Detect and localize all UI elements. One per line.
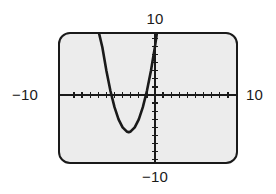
plot-canvas <box>60 34 236 162</box>
x-axis-max-label: 10 <box>246 87 263 102</box>
viewing-window-frame <box>58 32 238 164</box>
x-axis-min-label: −10 <box>12 87 38 102</box>
axes-group <box>60 34 236 162</box>
parabola-path <box>97 34 167 132</box>
y-axis-min-label: −10 <box>17 169 276 184</box>
parabola-curve <box>97 34 167 132</box>
graphing-calculator-figure: 10 −10 −10 10 <box>0 0 276 194</box>
y-axis-max-label: 10 <box>17 11 276 26</box>
